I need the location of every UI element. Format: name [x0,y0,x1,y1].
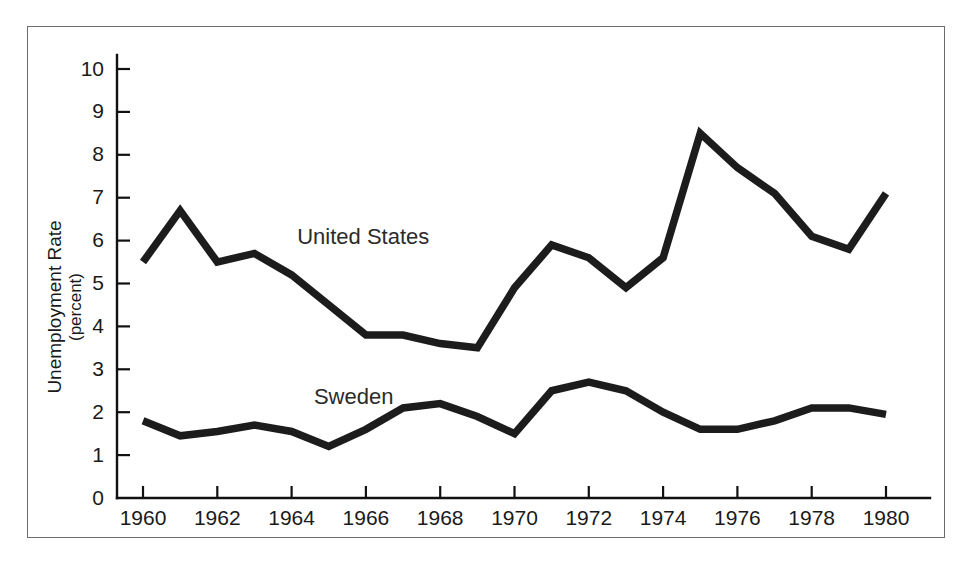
line-chart-plot: 0123456789101960196219641966196819701972… [28,27,946,539]
figure-border-frame: Unemployment Rate (percent) 012345678910… [27,26,945,538]
x-axis-tick-label: 1978 [788,506,835,529]
y-axis-tick-label: 6 [92,228,104,251]
y-axis-tick-label: 10 [81,57,104,80]
series-label-united-states: United States [297,224,429,249]
figure-root: Unemployment Rate (percent) 012345678910… [0,0,969,564]
y-axis-tick-label: 3 [92,357,104,380]
x-axis-tick-label: 1974 [640,506,687,529]
series-label-sweden: Sweden [314,384,394,409]
y-axis-tick-label: 8 [92,142,104,165]
x-axis-tick-label: 1980 [863,506,910,529]
series-line-united-states [143,133,886,348]
y-axis-tick-label: 2 [92,400,104,423]
y-axis-tick-label: 4 [92,314,104,337]
x-axis-tick-label: 1962 [194,506,241,529]
x-axis-tick-label: 1976 [714,506,761,529]
y-axis-tick-label: 5 [92,271,104,294]
y-axis-tick-label: 0 [92,486,104,509]
y-axis-tick-label: 9 [92,99,104,122]
x-axis-tick-label: 1964 [268,506,315,529]
x-axis-tick-label: 1960 [120,506,167,529]
series-line-sweden [143,382,886,446]
x-axis-tick-label: 1970 [491,506,538,529]
x-axis-tick-label: 1966 [343,506,390,529]
y-axis-tick-label: 7 [92,185,104,208]
x-axis-tick-label: 1968 [417,506,464,529]
y-axis-tick-label: 1 [92,443,104,466]
x-axis-tick-label: 1972 [565,506,612,529]
